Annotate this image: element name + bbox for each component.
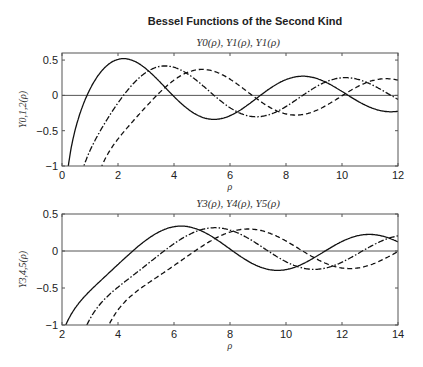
x-tick-label: 2 [115, 169, 121, 181]
x-tick-label: 10 [336, 169, 348, 181]
y-tick-label: −0.5 [36, 282, 58, 294]
series-Y5 [101, 229, 398, 346]
x-axis-label: ρ [227, 181, 233, 192]
series-Y4 [79, 228, 398, 347]
subplot-title: Y0(ρ), Y1(ρ), Y1(ρ) [196, 36, 280, 49]
series-Y1 [79, 66, 398, 184]
y-axis-label: Y3,4,5(ρ) [17, 250, 29, 288]
y-tick-label: −0.5 [36, 125, 58, 137]
x-tick-label: 12 [392, 169, 404, 181]
y-tick-label: −1 [45, 319, 58, 331]
x-tick-label: 6 [171, 328, 177, 340]
y-tick-label: 0 [52, 245, 58, 257]
y-tick-label: 0 [52, 89, 58, 101]
y-tick-label: 0.5 [43, 54, 58, 66]
x-tick-label: 10 [280, 328, 292, 340]
subplot-title: Y3(ρ), Y4(ρ), Y5(ρ) [196, 197, 280, 210]
x-tick-label: 14 [392, 328, 404, 340]
x-tick-label: 4 [171, 169, 177, 181]
figure-title: Bessel Functions of the Second Kind [148, 15, 342, 27]
x-tick-label: 0 [59, 169, 65, 181]
subplot-0 [62, 53, 398, 185]
axes-box [62, 53, 398, 166]
series-Y2 [96, 69, 398, 184]
x-tick-label: 12 [336, 328, 348, 340]
subplot-1 [62, 214, 398, 347]
series-Y3 [62, 226, 398, 334]
x-axis-label: ρ [227, 340, 233, 351]
x-tick-label: 8 [283, 169, 289, 181]
x-tick-label: 8 [227, 328, 233, 340]
x-tick-label: 2 [59, 328, 65, 340]
x-tick-label: 4 [115, 328, 121, 340]
x-tick-label: 6 [227, 169, 233, 181]
y-tick-label: −1 [45, 160, 58, 172]
y-axis-label: Y0,1,2(ρ) [17, 90, 29, 128]
figure: Bessel Functions of the Second KindY0(ρ)… [0, 0, 423, 367]
y-tick-label: 0.5 [43, 208, 58, 220]
